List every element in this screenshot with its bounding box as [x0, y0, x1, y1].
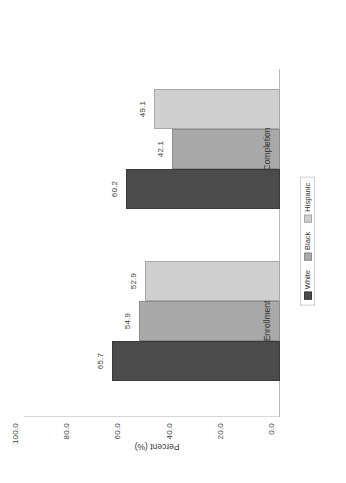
y-axis-title: Percent (%): [135, 442, 180, 452]
bar-value-label: 65.7: [96, 353, 105, 369]
category-label-enrollment: Enrollment: [262, 301, 272, 342]
bar-value-label: 49.1: [138, 101, 147, 117]
category-label-completion: Completion: [262, 128, 272, 171]
y-tick-label: 80.0: [62, 423, 71, 439]
bar-enrollment-white[interactable]: 65.7: [112, 341, 280, 381]
bar-group-enrollment: 65.7 54.9 52.9: [24, 261, 280, 381]
bar-value-label: 60.2: [110, 181, 119, 197]
y-tick-label: 0.0: [267, 423, 276, 435]
bar-group-completion: 60.2 42.1 49.1: [24, 89, 280, 209]
bar-value-label: 42.1: [156, 141, 165, 157]
y-tick-label: 100.0: [11, 423, 20, 444]
rotated-figure-wrapper: Percent (%) 0.0 20.0 40.0 60.0 80.0 100.…: [0, 0, 346, 483]
y-tick-label: 20.0: [215, 423, 224, 439]
legend-label: Hispanic: [303, 183, 312, 212]
legend-swatch-icon: [304, 215, 312, 223]
legend-swatch-icon: [304, 253, 312, 261]
legend-label: Black: [303, 232, 312, 250]
bar-value-label: 52.9: [129, 273, 138, 289]
legend-swatch-icon: [304, 292, 312, 300]
legend-item-hispanic[interactable]: Hispanic: [303, 183, 312, 223]
chart-legend: White Black Hispanic: [300, 177, 315, 306]
bar-enrollment-black[interactable]: 54.9: [139, 301, 280, 341]
legend-label: White: [303, 270, 312, 289]
bar-completion-hispanic[interactable]: 49.1: [154, 89, 280, 129]
plot-area: 0.0 20.0 40.0 60.0 80.0 100.0 65.7 54.9 …: [24, 69, 280, 417]
legend-item-white[interactable]: White: [303, 270, 312, 300]
bar-enrollment-hispanic[interactable]: 52.9: [145, 261, 280, 301]
bar-chart-figure: Percent (%) 0.0 20.0 40.0 60.0 80.0 100.…: [0, 0, 346, 483]
y-tick-label: 40.0: [164, 423, 173, 439]
y-axis-line: [24, 416, 280, 417]
legend-item-black[interactable]: Black: [303, 232, 312, 261]
bar-completion-white[interactable]: 60.2: [126, 169, 280, 209]
bar-value-label: 54.9: [123, 313, 132, 329]
y-tick-label: 60.0: [113, 423, 122, 439]
